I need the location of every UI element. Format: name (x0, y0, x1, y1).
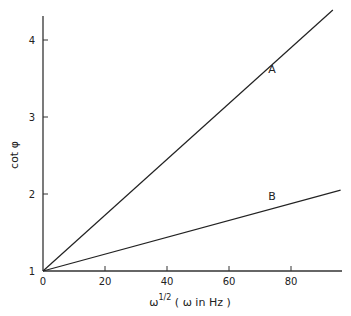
y-tick-label: 2 (29, 189, 35, 200)
x-axis-title: ω1/2 ( ω in Hz ) (149, 293, 230, 309)
y-axis-title: cot φ (8, 141, 21, 169)
x-tick-label: 80 (285, 276, 298, 287)
series-label-a: A (268, 63, 276, 76)
y-tick-label: 1 (29, 266, 35, 277)
x-tick-label: 60 (223, 276, 236, 287)
x-tick-label: 20 (99, 276, 112, 287)
x-tick-label: 0 (40, 276, 46, 287)
y-tick-label: 3 (29, 112, 35, 123)
x-tick-label: 40 (161, 276, 174, 287)
series-lines (43, 10, 341, 271)
axes (43, 16, 342, 271)
chart: 0204060801234ABω1/2 ( ω in Hz )cot φ (0, 0, 351, 316)
y-tick-label: 4 (29, 35, 35, 46)
series-label-b: B (268, 190, 276, 203)
